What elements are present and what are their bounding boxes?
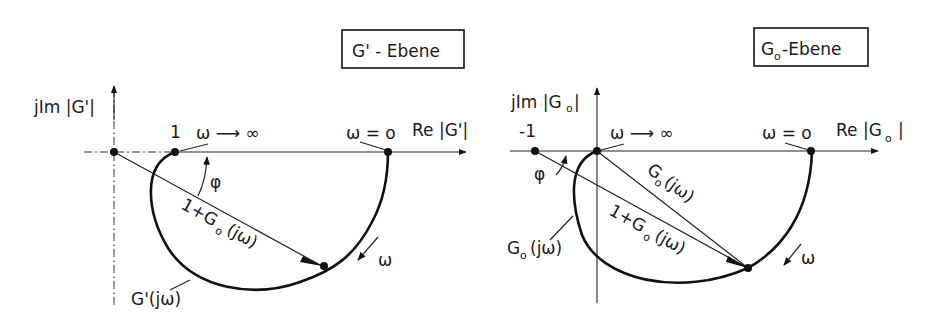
vector-label-suffix: (jω): [224, 219, 262, 252]
omega-zero-label: ω = o: [346, 123, 396, 143]
imag-axis-label-main: jIm |G: [510, 92, 562, 112]
leader-curve: [550, 216, 573, 240]
curve-g-prime: [151, 152, 388, 290]
omega-direction-label: ω: [801, 248, 815, 268]
curve-label-end: (jω): [530, 238, 562, 258]
vector-1-plus-go-label-prefix: 1+G: [606, 200, 649, 236]
vector-1-plus-go-label-suffix: (jω): [652, 225, 690, 258]
omega-inf-label: ω ⟶ ∞: [196, 123, 260, 143]
imag-axis-label-sub: o: [566, 102, 573, 115]
real-axis-label-sub: o: [885, 132, 892, 145]
phi-label: φ: [210, 172, 221, 192]
point-on-curve: [744, 264, 752, 272]
real-axis-label-end: |: [898, 120, 904, 140]
vector-1-plus-go: [114, 152, 322, 266]
curve-label: G'(jω): [131, 289, 181, 309]
origin-point: [110, 148, 118, 156]
imag-axis-label-end: |: [574, 92, 580, 112]
vector-arrowhead: [300, 256, 322, 266]
leader-omega-zero: [785, 143, 809, 150]
point-omega-inf: [593, 147, 601, 155]
vector-1-plus-go-label-group: 1+G o (jω): [604, 200, 689, 262]
right-panel: G o -Ebene jIm |G o | Re |G o | -1 ω ⟶ ∞…: [507, 28, 904, 303]
omega-zero-label: ω = o: [762, 123, 812, 143]
point-one-label: 1: [170, 122, 181, 142]
real-axis-label: Re |G'|: [412, 120, 468, 140]
phi-label: φ: [534, 164, 545, 184]
point-minus-one: [531, 147, 539, 155]
curve-label-main: G: [507, 238, 520, 258]
plane-title-sub: o: [774, 50, 781, 63]
leader-omega-inf: [601, 144, 624, 150]
point-on-curve: [320, 262, 328, 270]
plane-title-rest: -Ebene: [782, 39, 841, 59]
plane-title: G' - Ebene: [352, 41, 440, 61]
nyquist-diagrams: G' - Ebene jIm |G'| Re |G'| 1 ω ⟶ ∞ ω = …: [0, 0, 938, 328]
plane-title-main: G: [761, 39, 774, 59]
point-one: [171, 148, 179, 156]
imag-axis-label: jIm |G'|: [33, 97, 95, 117]
left-panel: G' - Ebene jIm |G'| Re |G'| 1 ω ⟶ ∞ ω = …: [33, 30, 468, 309]
curve-label-sub: o: [520, 249, 527, 262]
vector-go-label-end: (jω): [661, 171, 699, 206]
vector-label-group: 1+G o (jω): [176, 194, 261, 256]
real-axis-label-main: Re |G: [836, 120, 882, 140]
omega-inf-label: ω ⟶ ∞: [610, 123, 674, 143]
omega-direction-arrow: [784, 244, 801, 265]
leader-omega-zero: [360, 142, 386, 150]
omega-direction-label: ω: [378, 250, 392, 270]
point-minus-one-label: -1: [519, 121, 536, 141]
vector-go-label-group: G o (jω): [641, 159, 698, 210]
point-omega-zero: [807, 147, 815, 155]
leader-omega-inf: [180, 144, 208, 151]
vector-1-plus-go: [535, 151, 748, 268]
phi-arc: [198, 157, 207, 196]
